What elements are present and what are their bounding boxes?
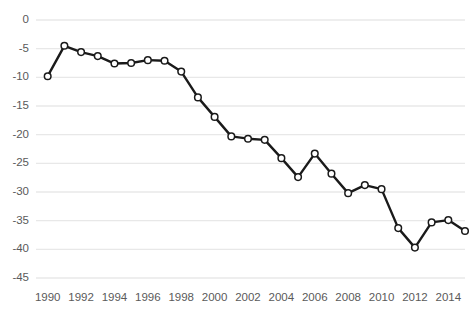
data-point-marker <box>261 137 268 144</box>
chart-plot-area <box>0 0 472 323</box>
data-point-marker <box>228 133 235 140</box>
y-tick-label: 0 <box>23 14 29 26</box>
data-point-marker <box>61 43 68 50</box>
data-point-marker <box>445 217 452 224</box>
x-tick-label: 2008 <box>335 292 361 304</box>
y-tick-label: -5 <box>19 43 29 55</box>
x-tick-label: 2002 <box>235 292 261 304</box>
x-tick-label: 1994 <box>102 292 128 304</box>
y-tick-label: -45 <box>12 272 29 284</box>
x-tick-label: 2000 <box>202 292 228 304</box>
x-tick-label: 2006 <box>302 292 328 304</box>
y-tick-label: -35 <box>12 215 29 227</box>
data-point-marker <box>161 57 168 64</box>
data-point-marker <box>328 170 335 177</box>
data-point-marker <box>111 60 118 67</box>
x-tick-label: 2012 <box>402 292 428 304</box>
series-line <box>48 46 465 248</box>
data-point-marker <box>94 53 101 60</box>
data-point-marker <box>245 135 252 142</box>
data-point-marker <box>211 114 218 121</box>
data-point-marker <box>412 244 419 251</box>
x-tick-label: 2010 <box>369 292 395 304</box>
data-point-marker <box>311 150 318 157</box>
data-point-marker <box>278 155 285 162</box>
data-point-marker <box>44 73 51 80</box>
data-line <box>48 46 465 248</box>
x-tick-label: 2014 <box>436 292 462 304</box>
y-tick-label: -10 <box>12 72 29 84</box>
data-point-marker <box>178 68 185 75</box>
data-point-marker <box>345 190 352 197</box>
x-tick-label: 1992 <box>68 292 94 304</box>
x-tick-label: 1996 <box>135 292 161 304</box>
data-point-marker <box>395 225 402 232</box>
y-tick-label: -20 <box>12 129 29 141</box>
y-tick-label: -30 <box>12 186 29 198</box>
data-point-marker <box>128 60 135 67</box>
y-tick-label: -15 <box>12 100 29 112</box>
data-point-marker <box>462 228 469 235</box>
data-point-marker <box>295 174 302 181</box>
data-markers <box>44 43 468 251</box>
data-point-marker <box>378 186 385 193</box>
data-point-marker <box>145 57 152 64</box>
x-tick-label: 2004 <box>269 292 295 304</box>
x-tick-label: 1990 <box>35 292 61 304</box>
y-tick-label: -40 <box>12 244 29 256</box>
line-chart: 0-5-10-15-20-25-30-35-40-45 199019921994… <box>0 0 472 323</box>
data-point-marker <box>78 49 85 56</box>
data-point-marker <box>362 182 369 189</box>
y-tick-label: -25 <box>12 158 29 170</box>
x-tick-label: 1998 <box>168 292 194 304</box>
data-point-marker <box>428 219 435 226</box>
data-point-marker <box>195 94 202 101</box>
